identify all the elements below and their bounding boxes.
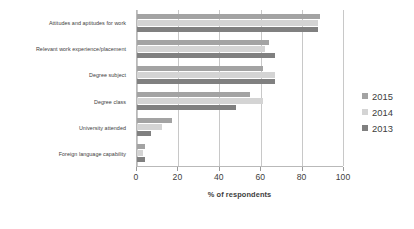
category-label: Foreign language capability (0, 141, 131, 167)
bar-row (137, 98, 343, 104)
legend-item[interactable]: 2014 (362, 104, 412, 120)
bar-2014 (137, 150, 143, 156)
bar-row (137, 53, 343, 59)
x-tick-label: 100 (336, 172, 350, 182)
bar-2015 (137, 144, 145, 150)
legend-label: 2013 (372, 123, 393, 134)
category-label: University attended (0, 115, 131, 141)
legend-swatch-icon (362, 125, 368, 131)
x-tick-label: 80 (297, 172, 307, 182)
category-axis: Attitudes and aptitudes for work Relevan… (0, 10, 131, 167)
bar-group (137, 140, 343, 166)
bar-2013 (137, 53, 275, 59)
bar-group (137, 62, 343, 88)
bar-row (137, 118, 343, 124)
bar-2013 (137, 27, 318, 33)
legend-swatch-icon (362, 93, 368, 99)
bar-2013 (137, 105, 236, 111)
bar-2013 (137, 157, 145, 163)
x-axis-tick-labels: 020406080100 (136, 172, 343, 186)
x-tick-mark (136, 167, 137, 171)
bar-2015 (137, 14, 320, 20)
bar-row (137, 144, 343, 150)
bar-chart: Attitudes and aptitudes for work Relevan… (0, 0, 414, 229)
bar-row (137, 131, 343, 137)
bar-row (137, 14, 343, 20)
bar-row (137, 92, 343, 98)
category-label: Degree subject (0, 62, 131, 88)
bar-row (137, 157, 343, 163)
bar-2014 (137, 20, 318, 26)
bar-2014 (137, 98, 263, 104)
x-tick-label: 60 (255, 172, 265, 182)
bar-row (137, 72, 343, 78)
bar-groups (137, 10, 343, 166)
bar-2015 (137, 118, 172, 124)
bar-row (137, 150, 343, 156)
x-tick-label: 0 (134, 172, 139, 182)
x-tick-label: 20 (173, 172, 183, 182)
bar-2013 (137, 131, 151, 137)
category-label: Degree class (0, 89, 131, 115)
bar-group (137, 36, 343, 62)
bar-row (137, 124, 343, 130)
bar-2015 (137, 66, 263, 72)
legend-item[interactable]: 2015 (362, 88, 412, 104)
legend-label: 2014 (372, 107, 393, 118)
bar-group (137, 88, 343, 114)
legend-item[interactable]: 2013 (362, 120, 412, 136)
bar-group (137, 114, 343, 140)
x-tick-mark (260, 167, 261, 171)
legend-swatch-icon (362, 109, 368, 115)
bar-2014 (137, 46, 265, 52)
plot-area (136, 10, 343, 167)
gridline (343, 10, 344, 166)
bar-row (137, 40, 343, 46)
bar-row (137, 105, 343, 111)
bar-row (137, 20, 343, 26)
bar-2013 (137, 79, 275, 85)
x-axis-title: % of respondents (136, 190, 343, 199)
bar-row (137, 66, 343, 72)
x-tick-label: 40 (214, 172, 224, 182)
bar-row (137, 79, 343, 85)
bar-2014 (137, 124, 162, 130)
bar-row (137, 46, 343, 52)
x-tick-mark (177, 167, 178, 171)
category-label: Attitudes and aptitudes for work (0, 10, 131, 36)
x-tick-mark (219, 167, 220, 171)
category-label: Relevant work experience/placement (0, 36, 131, 62)
bar-2014 (137, 72, 275, 78)
x-tick-mark (302, 167, 303, 171)
bar-2015 (137, 92, 250, 98)
bar-2015 (137, 40, 269, 46)
bar-group (137, 10, 343, 36)
legend: 201520142013 (362, 88, 412, 136)
x-tick-mark (343, 167, 344, 171)
bar-row (137, 27, 343, 33)
legend-label: 2015 (372, 91, 393, 102)
